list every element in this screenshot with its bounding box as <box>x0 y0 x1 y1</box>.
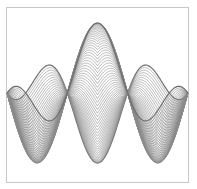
chart-plot <box>0 0 197 189</box>
